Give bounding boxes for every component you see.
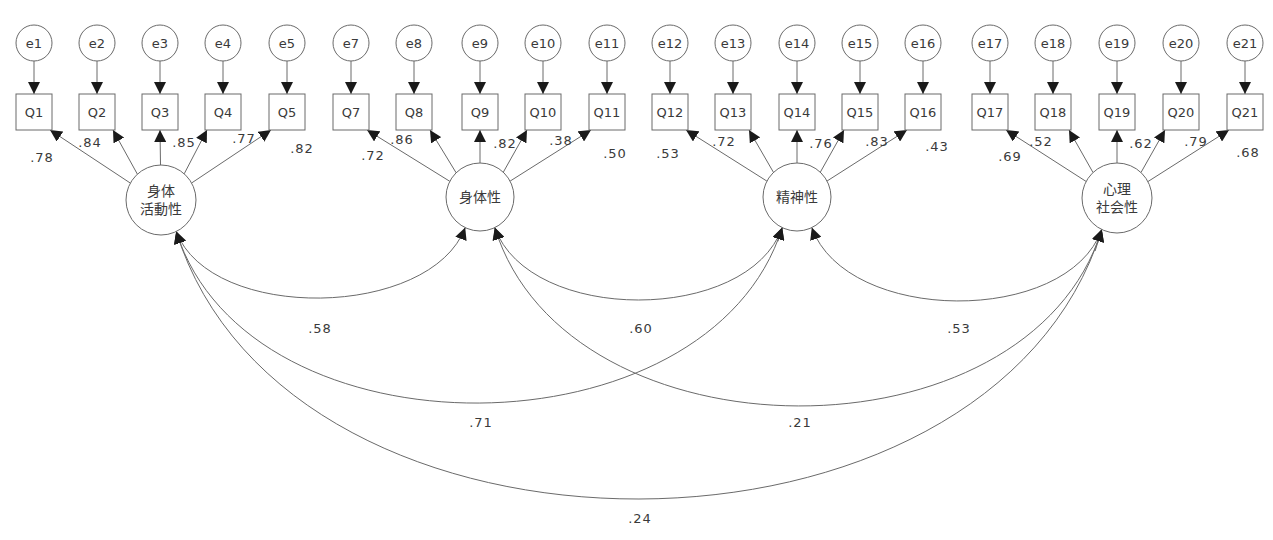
error-term-label: e7 <box>343 36 359 51</box>
error-term-label: e1 <box>26 36 42 51</box>
observed-variable-label: Q8 <box>405 105 424 120</box>
error-term-label: e10 <box>531 36 556 51</box>
loading-value: .78 <box>30 150 54 165</box>
loading-arrow <box>113 130 137 174</box>
loading-value: .38 <box>549 133 573 148</box>
error-term-label: e19 <box>1105 36 1130 51</box>
covariance-arc-F2-F4 <box>495 228 1102 406</box>
loading-value: .84 <box>78 135 102 150</box>
covariance-arrowhead <box>463 228 465 233</box>
covariance-value: .53 <box>947 321 971 336</box>
covariance-arrowhead <box>778 228 782 242</box>
loading-value: .72 <box>361 148 385 163</box>
covariance-value: .60 <box>629 321 653 336</box>
latent-factor-label: 精神性 <box>776 189 818 205</box>
loading-value: .77 <box>232 131 256 146</box>
observed-variable-label: Q18 <box>1040 105 1067 120</box>
error-term-label: e16 <box>911 36 936 51</box>
error-term-label: e14 <box>785 36 810 51</box>
error-term-label: e13 <box>721 36 746 51</box>
error-term-label: e5 <box>279 36 295 51</box>
covariance-arc-F2-F3 <box>495 228 782 300</box>
observed-variable-label: Q14 <box>784 105 811 120</box>
covariance-arc-F1-F3 <box>176 228 782 403</box>
error-term-label: e4 <box>215 36 231 51</box>
latent-factor-label: 身体性 <box>459 189 501 205</box>
loading-arrow <box>430 130 456 173</box>
covariance-value: .71 <box>469 415 493 430</box>
loading-arrow <box>1069 130 1093 173</box>
loading-value: .82 <box>493 136 517 151</box>
observed-variable-label: Q12 <box>657 105 684 120</box>
latent-factor-label: 身体 <box>147 183 175 199</box>
sem-path-diagram: e1Q1.78e2Q2.84e3Q3.85e4Q4.77e5Q5.82e7Q7.… <box>0 0 1273 540</box>
error-term-label: e15 <box>848 36 873 51</box>
loading-value: .72 <box>712 134 736 149</box>
observed-variable-label: Q4 <box>214 105 233 120</box>
loading-value: .62 <box>1129 136 1153 151</box>
loading-arrow <box>160 130 161 165</box>
covariance-value: .24 <box>628 511 652 526</box>
loading-value: .43 <box>925 139 949 154</box>
observed-variable-label: Q2 <box>88 105 107 120</box>
observed-variable-label: Q21 <box>1232 105 1259 120</box>
loading-value: .50 <box>603 146 627 161</box>
loading-value: .69 <box>998 149 1022 164</box>
error-term-label: e20 <box>1169 36 1194 51</box>
covariance-arc-F1-F2 <box>176 228 465 298</box>
observed-variable-label: Q19 <box>1104 105 1131 120</box>
latent-factor-label: 社会性 <box>1096 199 1138 215</box>
loading-value: .76 <box>809 136 833 151</box>
observed-variable-label: Q20 <box>1168 105 1195 120</box>
covariance-arc-F3-F4 <box>812 228 1102 301</box>
error-term-label: e12 <box>658 36 683 51</box>
error-term-label: e11 <box>595 36 620 51</box>
loading-arrow <box>749 130 774 172</box>
covariance-arrowhead <box>1095 230 1102 251</box>
observed-variable-label: Q10 <box>530 105 557 120</box>
loading-value: .83 <box>865 134 889 149</box>
loading-value: .82 <box>290 141 314 156</box>
latent-factor-F1 <box>126 165 196 235</box>
observed-variable-label: Q9 <box>471 105 490 120</box>
observed-variable-label: Q1 <box>25 105 44 120</box>
loading-value: .85 <box>172 135 196 150</box>
covariance-value: .58 <box>308 321 332 336</box>
error-term-label: e17 <box>978 36 1003 51</box>
observed-variable-label: Q15 <box>847 105 874 120</box>
observed-variable-label: Q5 <box>278 105 297 120</box>
loading-value: .86 <box>390 132 414 147</box>
observed-variable-label: Q13 <box>720 105 747 120</box>
latent-factor-F4 <box>1082 163 1152 233</box>
latent-factor-label: 心理 <box>1103 181 1131 197</box>
error-term-label: e2 <box>89 36 105 51</box>
observed-variable-label: Q17 <box>977 105 1004 120</box>
error-term-label: e8 <box>406 36 422 51</box>
latent-factor-label: 活動性 <box>140 201 182 217</box>
error-term-label: e21 <box>1233 36 1258 51</box>
observed-variable-label: Q3 <box>151 105 170 120</box>
observed-variable-label: Q11 <box>594 105 621 120</box>
observed-variable-label: Q16 <box>910 105 937 120</box>
error-term-label: e18 <box>1041 36 1066 51</box>
observed-variable-label: Q7 <box>342 105 361 120</box>
covariance-value: .21 <box>788 415 812 430</box>
covariance-arcs <box>176 228 1102 499</box>
covariance-arc-F1-F4 <box>176 230 1102 499</box>
error-term-label: e9 <box>472 36 488 51</box>
nodes <box>16 25 1263 235</box>
error-term-label: e3 <box>152 36 168 51</box>
loading-value: .79 <box>1184 134 1208 149</box>
loading-value: .52 <box>1029 134 1053 149</box>
loading-value: .53 <box>656 146 680 161</box>
loading-value: .68 <box>1236 145 1260 160</box>
